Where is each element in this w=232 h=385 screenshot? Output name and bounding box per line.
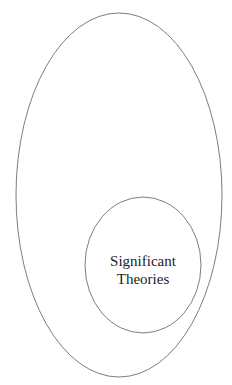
outer-ellipse: [16, 13, 222, 377]
inner-ellipse-label-line-2: Theories: [86, 270, 200, 288]
venn-diagram: [0, 0, 232, 385]
inner-ellipse-label-line-1: Significant: [86, 252, 200, 270]
